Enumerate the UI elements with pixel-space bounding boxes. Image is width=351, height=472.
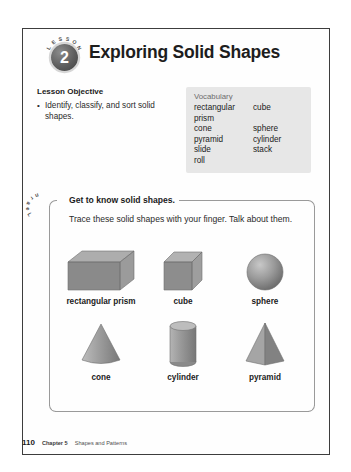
shape-cell-sphere: sphere bbox=[225, 242, 305, 306]
shape-label: sphere bbox=[225, 297, 305, 306]
frame-edge-bottom bbox=[55, 411, 309, 412]
shape-label: pyramid bbox=[225, 373, 305, 382]
vocabulary-term: roll bbox=[194, 156, 249, 167]
lesson-word-letter: S bbox=[58, 36, 63, 43]
learn-instructions: Trace these solid shapes with your finge… bbox=[69, 214, 299, 226]
learn-heading: Get to know solid shapes. bbox=[65, 195, 179, 205]
vocabulary-term: cylinder bbox=[253, 135, 303, 146]
learn-tab-letter: L bbox=[26, 212, 33, 218]
shape-cell-cube: cube bbox=[143, 242, 223, 306]
lesson-word-letter: S bbox=[65, 36, 70, 43]
rectangular-prism-icon bbox=[61, 242, 141, 294]
shape-label: rectangular prism bbox=[61, 297, 141, 306]
footer-chapter-title: Shapes and Patterns bbox=[75, 440, 127, 446]
learn-section: Learn Get to know solid shapes. Trace th… bbox=[39, 191, 315, 413]
lesson-number: 2 bbox=[51, 44, 78, 71]
pyramid-icon bbox=[225, 318, 305, 370]
learn-tab-letter: e bbox=[25, 207, 31, 211]
learn-frame: Get to know solid shapes. Trace these so… bbox=[49, 200, 315, 412]
vocabulary-term-grid: rectangular prism cube cone sphere pyram… bbox=[194, 103, 303, 167]
lesson-objective-list: Identify, classify, and sort solid shape… bbox=[37, 100, 177, 122]
page-number: 110 bbox=[22, 438, 35, 447]
cylinder-icon bbox=[143, 318, 223, 370]
lesson-objective-item: Identify, classify, and sort solid shape… bbox=[37, 100, 177, 122]
sphere-icon bbox=[225, 242, 305, 294]
learn-tab-letter: a bbox=[26, 201, 33, 206]
cube-icon bbox=[143, 242, 223, 294]
vocabulary-term: stack bbox=[253, 145, 303, 156]
lesson-badge: LESSON 2 bbox=[45, 37, 83, 75]
shape-row-1: rectangular prism bbox=[61, 242, 305, 306]
vocabulary-box: Vocabulary rectangular prism cube cone s… bbox=[186, 87, 311, 173]
shape-row-2: cone bbox=[61, 318, 305, 382]
vocabulary-term: slide bbox=[194, 145, 249, 156]
vocabulary-term: pyramid bbox=[194, 135, 249, 146]
lesson-header: LESSON 2 Exploring Solid Shapes bbox=[33, 35, 323, 75]
lesson-objective-block: Lesson Objective Identify, classify, and… bbox=[37, 87, 177, 122]
textbook-page: LESSON 2 Exploring Solid Shapes Lesson O… bbox=[22, 28, 330, 455]
shape-cell-rectangular-prism: rectangular prism bbox=[61, 242, 141, 306]
frame-edge-top bbox=[163, 200, 309, 201]
learn-tab-letter: n bbox=[34, 192, 39, 199]
shape-cell-pyramid: pyramid bbox=[225, 318, 305, 382]
shape-grid: rectangular prism bbox=[61, 242, 305, 382]
frame-edge-left bbox=[49, 206, 50, 406]
cone-icon bbox=[61, 318, 141, 370]
shape-label: cube bbox=[143, 297, 223, 306]
vocabulary-term: sphere bbox=[253, 124, 303, 135]
lesson-objective-heading: Lesson Objective bbox=[37, 87, 177, 96]
page-title: Exploring Solid Shapes bbox=[89, 42, 280, 63]
footer-chapter: Chapter 5 bbox=[42, 440, 68, 446]
shape-label: cylinder bbox=[143, 373, 223, 382]
frame-corner-top-left bbox=[49, 200, 57, 208]
vocabulary-term bbox=[253, 156, 303, 167]
vocabulary-title: Vocabulary bbox=[194, 92, 303, 101]
frame-edge-right bbox=[314, 206, 315, 406]
shape-cell-cylinder: cylinder bbox=[143, 318, 223, 382]
page-footer: 110 Chapter 5 Shapes and Patterns bbox=[22, 438, 322, 447]
vocabulary-term: cube bbox=[253, 103, 303, 124]
shape-label: cone bbox=[61, 373, 141, 382]
shape-cell-cone: cone bbox=[61, 318, 141, 382]
vocabulary-term: cone bbox=[194, 124, 249, 135]
learn-tab-letter: r bbox=[29, 196, 35, 202]
vocabulary-term: rectangular prism bbox=[194, 103, 249, 124]
